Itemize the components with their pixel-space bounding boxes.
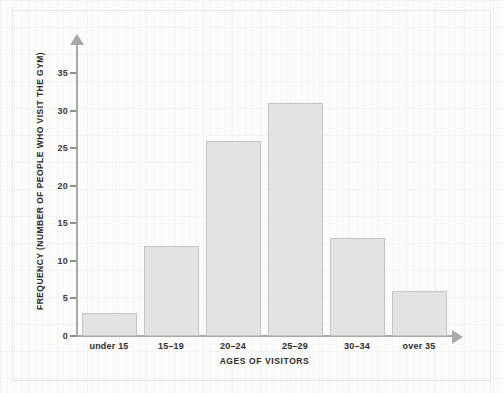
y-axis-tick [70,297,76,299]
bar-30-34 [330,238,385,336]
y-axis-tick-label: 0 [63,331,68,341]
x-axis-tick-label: 30–34 [330,341,385,351]
y-axis-tick [70,72,76,74]
y-axis-tick-label: 15 [58,218,68,228]
y-axis-tick-label: 20 [58,181,68,191]
x-axis-title: AGES OF VISITORS [76,356,453,366]
y-axis-tick-label: 30 [58,106,68,116]
y-axis-title: FREQUENCY (NUMBER OF PEOPLE WHO VISIT TH… [35,60,45,310]
x-axis-tick-label: under 15 [82,341,137,351]
y-axis-tick [70,260,76,262]
bar-under-15 [82,313,137,336]
x-axis-arrow-icon [452,330,463,344]
y-axis-tick-label: 25 [58,143,68,153]
y-axis-tick [70,222,76,224]
bar-25-29 [268,103,323,336]
x-axis-tick-label: 20–24 [206,341,261,351]
y-axis-arrow-icon [70,34,84,45]
y-axis-tick-label: 10 [58,256,68,266]
bar-15-19 [144,246,199,336]
y-axis-tick [70,110,76,112]
y-axis-tick [70,335,76,337]
y-axis-tick-label: 35 [58,68,68,78]
chart-page: 05101520253035under 1515–1920–2425–2930–… [0,0,504,393]
y-axis-tick-label: 5 [63,293,68,303]
x-axis-tick-label: 15–19 [144,341,199,351]
x-axis-tick-label: 25–29 [268,341,323,351]
y-axis-tick [70,185,76,187]
y-axis-line [76,44,78,337]
bar-20-24 [206,141,261,336]
x-axis-tick-label: over 35 [392,341,447,351]
y-axis-tick [70,147,76,149]
bar-chart-plot-area: 05101520253035under 1515–1920–2425–2930–… [0,0,504,393]
bar-over-35 [392,291,447,336]
